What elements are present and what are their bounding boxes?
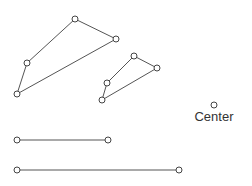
- center-label: Center: [194, 109, 234, 124]
- diagram-canvas: Center: [0, 0, 252, 186]
- vertex[interactable]: [24, 60, 30, 66]
- vertex[interactable]: [105, 137, 111, 143]
- short-segment: [14, 137, 111, 143]
- vertex[interactable]: [131, 53, 137, 59]
- vertex[interactable]: [104, 80, 110, 86]
- vertex[interactable]: [154, 65, 160, 71]
- small-quadrilateral: [99, 53, 160, 103]
- large-quadrilateral: [14, 16, 119, 97]
- vertex[interactable]: [72, 16, 78, 22]
- vertex[interactable]: [14, 167, 20, 173]
- long-segment: [14, 167, 182, 173]
- center-point[interactable]: [211, 102, 217, 108]
- vertex[interactable]: [99, 97, 105, 103]
- small-quadrilateral-edges: [102, 56, 157, 100]
- center-marker: Center: [194, 102, 234, 124]
- vertex[interactable]: [176, 167, 182, 173]
- vertex[interactable]: [14, 137, 20, 143]
- vertex[interactable]: [113, 36, 119, 42]
- large-quadrilateral-edges: [17, 19, 116, 94]
- vertex[interactable]: [14, 91, 20, 97]
